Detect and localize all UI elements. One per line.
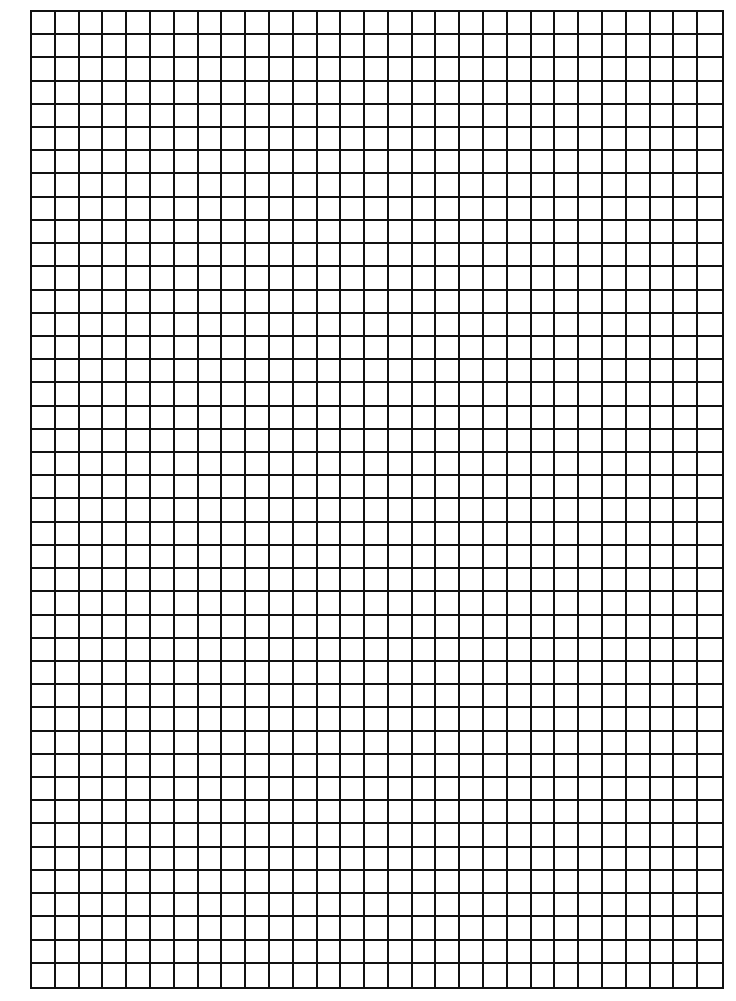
grid-cell <box>270 430 294 453</box>
grid-cell <box>651 732 675 755</box>
grid-cell <box>294 801 318 824</box>
grid-cell <box>555 407 579 430</box>
grid-cell <box>222 12 246 35</box>
grid-cell <box>484 685 508 708</box>
grid-cell <box>436 964 460 987</box>
grid-cell <box>627 801 651 824</box>
grid-cell <box>222 35 246 58</box>
grid-cell <box>555 755 579 778</box>
grid-cell <box>175 360 199 383</box>
grid-cell <box>341 12 365 35</box>
grid-cell <box>627 755 651 778</box>
grid-cell <box>555 453 579 476</box>
grid-cell <box>460 662 484 685</box>
grid-cell <box>341 360 365 383</box>
grid-cell <box>603 35 627 58</box>
grid-cell <box>698 476 722 499</box>
grid-cell <box>413 267 437 290</box>
grid-cell <box>579 708 603 731</box>
grid-cell <box>294 174 318 197</box>
grid-cell <box>80 360 104 383</box>
grid-cell <box>80 848 104 871</box>
grid-cell <box>32 430 56 453</box>
grid-cell <box>246 546 270 569</box>
grid-cell <box>151 732 175 755</box>
grid-cell <box>175 592 199 615</box>
grid-cell <box>698 82 722 105</box>
grid-cell <box>436 592 460 615</box>
grid-cell <box>199 35 223 58</box>
grid-cell <box>436 778 460 801</box>
grid-cell <box>484 778 508 801</box>
grid-cell <box>603 407 627 430</box>
grid-cell <box>651 12 675 35</box>
grid-cell <box>294 499 318 522</box>
grid-cell <box>698 360 722 383</box>
grid-cell <box>341 662 365 685</box>
grid-cell <box>80 58 104 81</box>
grid-cell <box>579 523 603 546</box>
grid-cell <box>103 523 127 546</box>
grid-cell <box>532 476 556 499</box>
grid-cell <box>222 755 246 778</box>
grid-cell <box>318 778 342 801</box>
grid-cell <box>222 407 246 430</box>
grid-cell <box>555 662 579 685</box>
grid-cell <box>413 499 437 522</box>
grid-cell <box>103 894 127 917</box>
grid-cell <box>80 174 104 197</box>
grid-cell <box>222 778 246 801</box>
grid-cell <box>175 848 199 871</box>
grid-cell <box>674 314 698 337</box>
grid-cell <box>532 639 556 662</box>
grid-cell <box>436 871 460 894</box>
grid-cell <box>627 964 651 987</box>
grid-cell <box>460 360 484 383</box>
grid-cell <box>555 244 579 267</box>
grid-cell <box>603 917 627 940</box>
grid-cell <box>32 801 56 824</box>
grid-cell <box>318 267 342 290</box>
grid-cell <box>341 105 365 128</box>
grid-cell <box>341 407 365 430</box>
grid-cell <box>532 35 556 58</box>
grid-cell <box>508 221 532 244</box>
grid-cell <box>460 430 484 453</box>
grid-cell <box>222 569 246 592</box>
grid-cell <box>698 407 722 430</box>
grid-cell <box>674 174 698 197</box>
grid-cell <box>627 337 651 360</box>
grid-cell <box>199 82 223 105</box>
grid-cell <box>460 244 484 267</box>
grid-cell <box>460 337 484 360</box>
grid-cell <box>294 476 318 499</box>
grid-cell <box>56 244 80 267</box>
grid-cell <box>698 151 722 174</box>
grid-cell <box>627 58 651 81</box>
grid-cell <box>80 244 104 267</box>
grid-cell <box>32 499 56 522</box>
grid-cell <box>222 337 246 360</box>
grid-cell <box>627 871 651 894</box>
grid-cell <box>413 430 437 453</box>
grid-cell <box>151 755 175 778</box>
grid-cell <box>222 523 246 546</box>
grid-cell <box>579 685 603 708</box>
grid-cell <box>460 616 484 639</box>
grid-cell <box>246 917 270 940</box>
grid-cell <box>32 964 56 987</box>
grid-cell <box>294 824 318 847</box>
grid-cell <box>341 708 365 731</box>
grid-cell <box>698 430 722 453</box>
grid-cell <box>389 499 413 522</box>
grid-cell <box>151 546 175 569</box>
grid-cell <box>294 639 318 662</box>
grid-cell <box>56 523 80 546</box>
grid-cell <box>270 662 294 685</box>
grid-cell <box>674 12 698 35</box>
grid-cell <box>32 755 56 778</box>
grid-cell <box>698 871 722 894</box>
grid-cell <box>246 314 270 337</box>
grid-cell <box>532 685 556 708</box>
grid-cell <box>270 453 294 476</box>
